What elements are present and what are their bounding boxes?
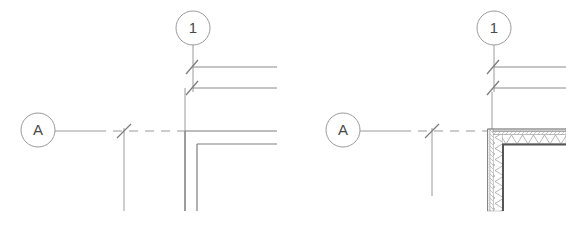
grid-bubble-label: 1 [490,19,498,36]
wall-structural-inner-face [503,145,566,212]
composite-wall-assembly [488,129,566,211]
grid-bubble-1-left[interactable]: 1 [176,11,210,45]
wall-layer-sheathing-horizontal [492,131,566,134]
grid-bubble-label: A [33,121,43,138]
grid-bubble-a-right[interactable]: A [326,113,360,147]
grid-bubble-label: 1 [189,19,197,36]
right-figure: 1 A [326,11,566,211]
grid-bubble-label: A [338,121,348,138]
wall-layer-sheathing-vertical [490,129,493,211]
left-figure: 1 A [21,11,277,211]
drawing-viewport: 1 A [0,0,566,231]
grid-bubble-1-right[interactable]: 1 [477,11,511,45]
architectural-drawing-canvas: 1 A [0,0,566,231]
grid-bubble-a-left[interactable]: A [21,113,55,147]
wall-layer-insulation-horizontal [492,135,566,144]
wall-layer-insulation-vertical [493,135,502,211]
